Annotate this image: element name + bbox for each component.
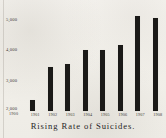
bar (153, 18, 158, 111)
chart-caption: Rising Rate of Suicides. (0, 121, 166, 132)
x-axis-tick-label: 1901 (29, 112, 41, 117)
y-axis-tick-label: 3,000 (6, 78, 17, 83)
x-axis-tick-label: 1903 (64, 112, 76, 117)
bar (118, 45, 123, 111)
bar (30, 100, 35, 111)
x-axis-tick-label: 1905 (99, 112, 111, 117)
y-axis-tick-label: 4,000 (6, 47, 17, 52)
x-axis-tick-label: 1906 (117, 112, 129, 117)
x-axis-tick-label: 1904 (82, 112, 94, 117)
y-axis-baseline-year: 1900 (6, 112, 18, 116)
x-axis-tick-label: 1907 (134, 112, 146, 117)
x-axis-tick-label: 1902 (47, 112, 59, 117)
bar (65, 64, 70, 111)
y-axis-tick-label: 5,000 (6, 17, 17, 22)
bar (135, 16, 140, 111)
page-margin-rule (3, 0, 4, 138)
x-axis-tick-label: 1908 (152, 112, 164, 117)
bar (48, 67, 53, 111)
x-axis-labels: 19011902190319041905190619071908 (24, 112, 164, 119)
plot-area (24, 10, 164, 111)
bar (83, 50, 88, 111)
bar (100, 50, 105, 111)
chart-figure: 5,0004,0003,0002,0001900 190119021903190… (0, 0, 166, 138)
y-axis-baseline-label: 2,0001900 (6, 107, 18, 116)
